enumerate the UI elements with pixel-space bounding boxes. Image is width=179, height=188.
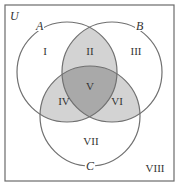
region-label-5: V [86,80,94,92]
region-label-1: I [43,45,47,57]
region-label-2: II [86,45,94,57]
set-label-b: B [136,19,144,33]
region-label-3: III [131,45,142,57]
region-label-6: VI [111,95,123,107]
set-label-a: A [35,19,44,33]
set-label-c: C [86,159,95,173]
universe-label: U [10,9,20,23]
venn-diagram: U A B C I II III IV V VI VII VIII [0,0,179,188]
region-label-4: IV [58,95,70,107]
region-label-7: VII [83,135,99,147]
region-label-8: VIII [146,162,165,174]
